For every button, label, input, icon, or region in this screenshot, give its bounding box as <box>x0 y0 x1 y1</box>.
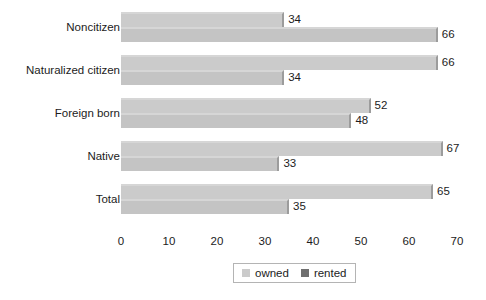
bar-rented <box>121 113 351 128</box>
category-label: Noncitizen <box>6 21 120 33</box>
legend-swatch-icon <box>242 269 250 277</box>
x-axis-tick-label: 30 <box>259 234 272 248</box>
category-label: Total <box>6 193 120 205</box>
x-axis-tick-label: 40 <box>307 234 320 248</box>
bar-value-label: 34 <box>284 12 301 27</box>
category-label: Naturalized citizen <box>6 64 120 76</box>
legend-label: owned <box>255 267 289 280</box>
bar-value-label: 35 <box>289 199 306 214</box>
bar-value-label: 66 <box>438 27 455 42</box>
bar-value-label: 48 <box>351 113 368 128</box>
category-label: Foreign born <box>6 107 120 119</box>
bar-value-label: 65 <box>433 184 450 199</box>
bar-owned <box>121 98 371 113</box>
x-axis: 010203040506070 <box>121 234 457 252</box>
bar-group: 6634 <box>121 55 457 85</box>
category-label: Native <box>6 150 120 162</box>
bar-group: 6535 <box>121 184 457 214</box>
bar-owned <box>121 55 438 70</box>
bar-rented <box>121 199 289 214</box>
bar-rented <box>121 70 284 85</box>
bar-owned <box>121 184 433 199</box>
x-axis-tick-label: 60 <box>403 234 416 248</box>
x-axis-tick-label: 0 <box>118 234 124 248</box>
bar-value-label: 52 <box>371 98 388 113</box>
bar-value-label: 34 <box>284 70 301 85</box>
x-axis-tick-label: 10 <box>163 234 176 248</box>
bar-chart: NoncitizenNaturalized citizenForeign bor… <box>0 0 486 300</box>
legend-item-rented[interactable]: rented <box>301 267 347 280</box>
legend-swatch-icon <box>301 269 309 277</box>
bar-owned <box>121 12 284 27</box>
x-axis-tick-label: 50 <box>355 234 368 248</box>
x-axis-tick-label: 20 <box>211 234 224 248</box>
bar-group: 6733 <box>121 141 457 171</box>
bar-value-label: 33 <box>279 156 296 171</box>
bar-group: 3466 <box>121 12 457 42</box>
bar-group: 5248 <box>121 98 457 128</box>
bar-value-label: 66 <box>438 55 455 70</box>
plot-area: 34666634524867336535 <box>121 0 457 232</box>
bar-owned <box>121 141 443 156</box>
legend-item-owned[interactable]: owned <box>242 267 289 280</box>
bar-rented <box>121 27 438 42</box>
legend-label: rented <box>314 267 347 280</box>
chart-legend: ownedrented <box>233 263 356 283</box>
x-axis-tick-label: 70 <box>451 234 464 248</box>
bar-rented <box>121 156 279 171</box>
bar-value-label: 67 <box>443 141 460 156</box>
